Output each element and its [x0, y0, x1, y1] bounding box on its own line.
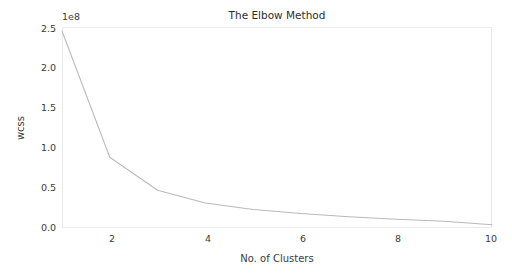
y-tick-label: 2.5 [41, 23, 56, 34]
y-tick-label: 1.0 [41, 142, 56, 153]
y-tick-label: 1.5 [41, 102, 56, 113]
y-axis-title: wcss [15, 116, 26, 140]
y-tick-label: 0.5 [41, 182, 56, 193]
x-axis-title: No. of Clusters [240, 253, 313, 264]
x-tick-label: 6 [300, 233, 306, 244]
x-tick-label: 2 [109, 233, 115, 244]
chart-title: The Elbow Method [228, 9, 326, 21]
y-tick-label: 2.0 [41, 62, 56, 73]
x-tick-label: 8 [395, 233, 401, 244]
elbow-method-chart: 1e8 The Elbow Method 0.0 0.5 1.0 1.5 2.0… [0, 0, 512, 275]
x-tick-label: 10 [485, 233, 497, 244]
chart-figure: 1e8 The Elbow Method 0.0 0.5 1.0 1.5 2.0… [0, 0, 512, 275]
chart-background [0, 0, 512, 275]
y-axis-offset-text: 1e8 [62, 11, 80, 22]
x-tick-label: 4 [205, 233, 211, 244]
y-tick-label: 0.0 [41, 222, 56, 233]
